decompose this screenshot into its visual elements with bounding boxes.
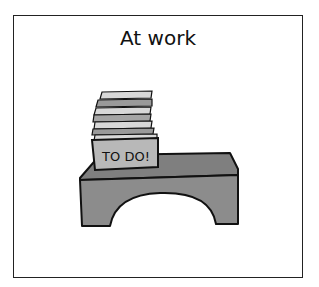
- todo-label: TO DO!: [101, 149, 150, 164]
- paper-stack: [92, 91, 157, 141]
- todo-tray: TO DO!: [92, 138, 158, 170]
- desk-illustration: TO DO!: [0, 0, 319, 287]
